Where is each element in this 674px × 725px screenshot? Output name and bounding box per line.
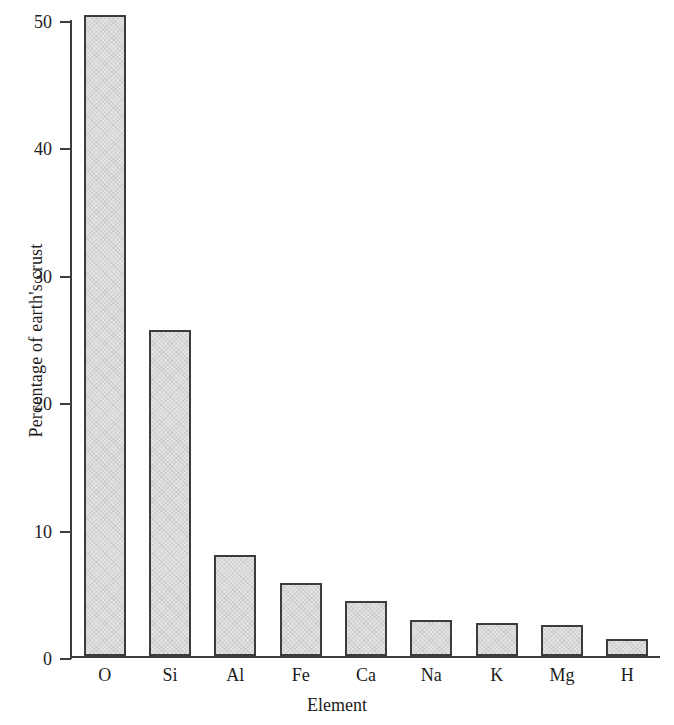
plot-area: 01020304050: [70, 20, 660, 658]
x-tick-label-k: K: [464, 665, 529, 686]
x-axis-line: [70, 656, 660, 658]
y-tick-mark: [60, 531, 71, 533]
x-tick-label-h: H: [595, 665, 660, 686]
x-tick-label-mg: Mg: [529, 665, 594, 686]
x-tick-label-si: Si: [137, 665, 202, 686]
y-tick-mark: [60, 148, 71, 150]
x-tick-label-o: O: [72, 665, 137, 686]
x-tick-label-fe: Fe: [268, 665, 333, 686]
y-axis-title: Percentage of earth's crust: [26, 141, 47, 541]
bar-slot: [203, 19, 268, 656]
y-tick-label: 10: [0, 522, 52, 543]
bar-o: [84, 15, 126, 656]
bar-slot: [529, 19, 594, 656]
y-tick-label: 20: [0, 394, 52, 415]
bar-al: [214, 555, 256, 656]
y-tick-label: 40: [0, 139, 52, 160]
bar-slot: [595, 19, 660, 656]
bar-mg: [541, 625, 583, 656]
bar-series: [72, 19, 660, 656]
bar-slot: [268, 19, 333, 656]
bar-slot: [72, 19, 137, 656]
bar-slot: [399, 19, 464, 656]
bar-slot: [137, 19, 202, 656]
bar-slot: [333, 19, 398, 656]
y-tick-mark: [60, 276, 71, 278]
y-tick-mark: [60, 658, 71, 660]
x-tick-label-al: Al: [203, 665, 268, 686]
bar-h: [606, 639, 648, 656]
x-axis-tick-labels: OSiAlFeCaNaKMgH: [72, 665, 660, 686]
bar-ca: [345, 601, 387, 656]
bar-na: [410, 620, 452, 656]
y-tick-label: 30: [0, 267, 52, 288]
x-tick-label-na: Na: [399, 665, 464, 686]
y-tick-label: 50: [0, 12, 52, 33]
bar-si: [149, 330, 191, 656]
bar-slot: [464, 19, 529, 656]
bar-chart-figure: Percentage of earth's crust 01020304050 …: [0, 0, 674, 725]
x-tick-label-ca: Ca: [333, 665, 398, 686]
x-axis-title: Element: [0, 695, 674, 716]
y-tick-mark: [60, 403, 71, 405]
bar-fe: [280, 583, 322, 656]
y-tick-label: 0: [0, 649, 52, 670]
bar-k: [476, 623, 518, 656]
y-tick-mark: [60, 21, 71, 23]
